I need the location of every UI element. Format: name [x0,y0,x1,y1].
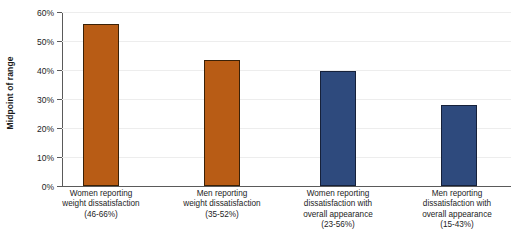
x-category-label-3: Men reporting dissatisfaction with overa… [400,189,514,231]
gridline-50 [62,41,511,42]
x-category-label-1: Men reporting weight dissatisfaction (35… [162,189,282,220]
y-tick-label-10: 10% [10,153,54,163]
y-tick-label-30: 30% [10,95,54,105]
y-tick-label-40: 40% [10,66,54,76]
y-tick-label-60: 60% [10,8,54,18]
gridline-30 [62,99,511,100]
gridline-60 [62,12,511,13]
bar-men-weight-dissatisfaction [204,60,240,186]
x-axis-line [62,186,511,187]
gridline-40 [62,70,511,71]
bar-men-appearance-dissatisfaction [441,105,477,186]
y-tick-label-20: 20% [10,124,54,134]
bar-chart: Midpoint of range 60% 50% 40% 30% 20% 10… [0,0,517,237]
plot-area [62,12,511,186]
bar-women-weight-dissatisfaction [83,24,119,186]
x-category-label-2: Women reporting dissatisfaction with ove… [281,189,395,231]
bar-women-appearance-dissatisfaction [320,71,356,186]
x-category-label-0: Women reporting weight dissatisfaction (… [41,189,161,220]
y-tick-label-50: 50% [10,37,54,47]
